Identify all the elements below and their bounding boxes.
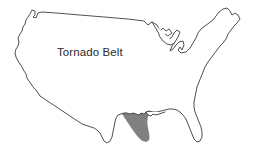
tornado-belt-label: Tornado Belt [57, 46, 123, 58]
gulf-coast-detail [146, 112, 165, 116]
us-map-svg: Tornado Belt [0, 0, 258, 161]
us-outline-path [15, 8, 240, 143]
tornado-belt-map-figure: Tornado Belt [0, 0, 258, 161]
